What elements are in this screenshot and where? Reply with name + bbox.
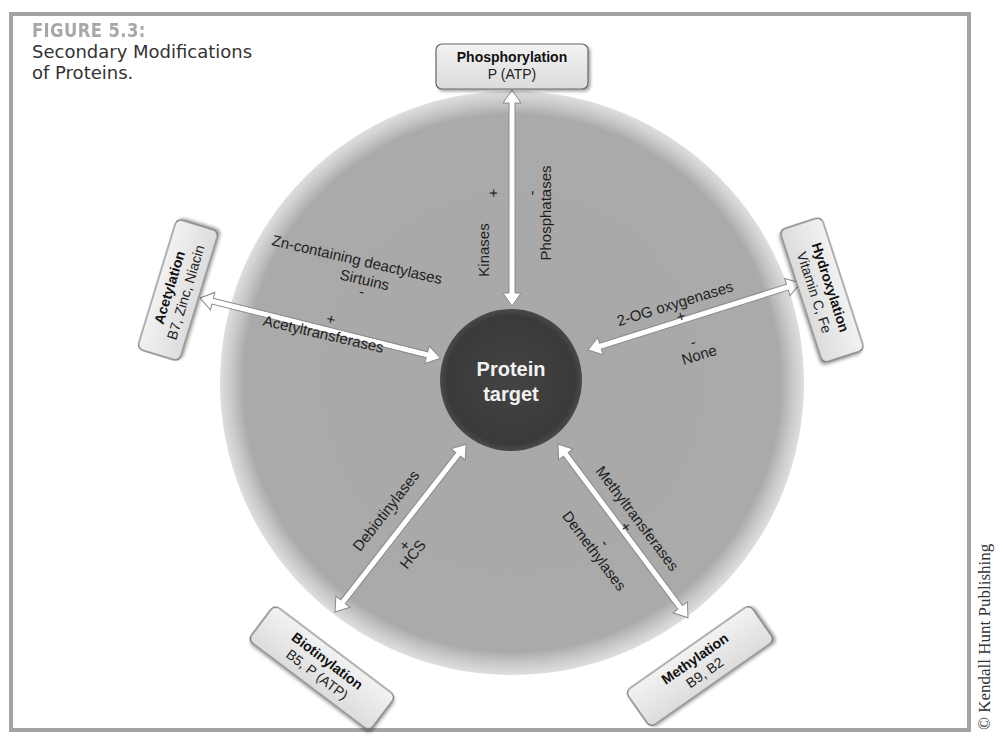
protein-target-node: Protein target: [440, 309, 582, 451]
phosphorylation-title: Phosphorylation: [457, 49, 567, 65]
phosphorylation-cofactors: P (ATP): [488, 66, 537, 82]
center-label-line2: target: [483, 383, 539, 405]
acetylation-box: Acetylation B7, Zinc, Niacin: [137, 219, 219, 362]
phosphorylation-plus-enzyme: Kinases: [475, 223, 492, 276]
center-label-line1: Protein: [477, 358, 546, 380]
phosphorylation-minus-enzyme: Phosphatases: [537, 165, 554, 260]
copyright-notice: © Kendall Hunt Publishing: [975, 544, 995, 730]
phosphorylation-box: Phosphorylation P (ATP): [436, 44, 588, 89]
phosphorylation-plus-symbol: +: [484, 188, 501, 197]
center-circle: [440, 309, 582, 451]
modification-diagram: Protein target Kinases + - Phosphatases …: [0, 0, 1002, 743]
